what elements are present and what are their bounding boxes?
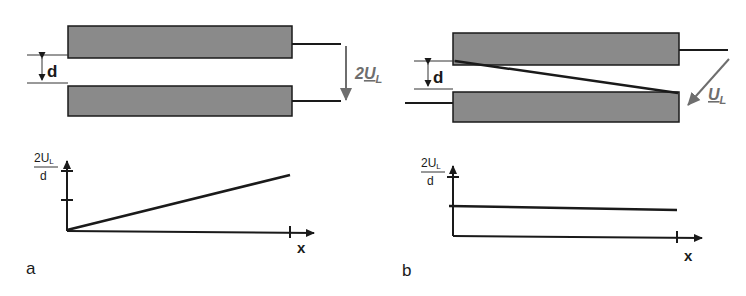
gap-label: d xyxy=(47,62,57,81)
x-axis-label: x xyxy=(684,247,693,264)
voltage-label: 2UL xyxy=(354,65,382,85)
panel-a-capacitor: d 2UL xyxy=(27,26,382,116)
field-curve xyxy=(449,206,677,210)
x-axis xyxy=(453,236,702,238)
panel-label-a: a xyxy=(26,259,36,278)
diagram-canvas: d 2UL d UL 2UL d x a xyxy=(0,0,746,296)
x-axis xyxy=(67,231,314,233)
top-plate xyxy=(453,33,679,65)
y-axis-label-denominator: d xyxy=(40,169,47,183)
y-axis-label-numerator: 2UL xyxy=(34,151,54,166)
bottom-plate xyxy=(453,92,679,122)
field-curve xyxy=(67,175,290,230)
graph-b: 2UL d x b xyxy=(402,156,702,280)
y-axis-label-numerator: 2UL xyxy=(421,156,441,171)
top-plate xyxy=(68,26,292,58)
voltage-label: UL xyxy=(708,86,727,106)
y-axis-label-denominator: d xyxy=(427,174,434,188)
gap-label: d xyxy=(433,68,443,87)
panel-label-b: b xyxy=(402,261,411,280)
graph-a: 2UL d x a xyxy=(26,151,314,278)
diagonal-resistive-layer xyxy=(455,61,678,93)
x-axis-label: x xyxy=(297,239,306,256)
bottom-plate xyxy=(68,86,292,116)
panel-b-capacitor: d UL xyxy=(405,33,729,122)
